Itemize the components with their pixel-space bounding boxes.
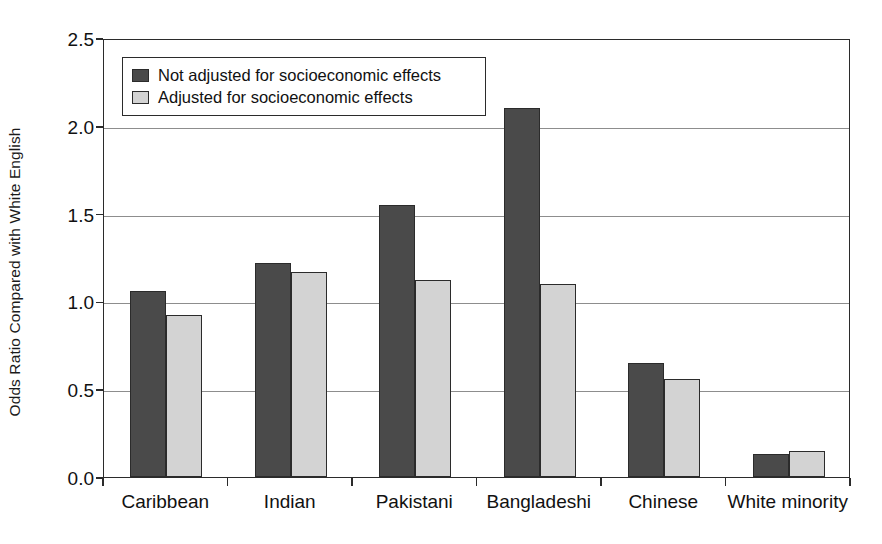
gridline bbox=[104, 391, 849, 392]
y-axis-tick-mark bbox=[96, 389, 103, 391]
chart-legend: Not adjusted for socioeconomic effects A… bbox=[122, 57, 486, 116]
y-axis-tick-mark bbox=[96, 38, 103, 40]
bar bbox=[166, 315, 202, 477]
y-axis-tick-mark bbox=[96, 302, 103, 304]
bar-chart-figure: Odds Ratio Compared with White English 0… bbox=[0, 0, 882, 544]
x-axis-tick-mark bbox=[102, 478, 104, 486]
y-axis-tick-label: 1.0 bbox=[48, 293, 94, 312]
y-axis-tick-label: 0.5 bbox=[48, 381, 94, 400]
bar bbox=[628, 363, 664, 477]
x-axis-tick-mark bbox=[351, 478, 353, 486]
y-axis-tick-label: 0.0 bbox=[48, 469, 94, 488]
x-axis-tick-label: Indian bbox=[264, 492, 316, 511]
bar bbox=[415, 280, 451, 477]
y-axis-tick-mark bbox=[96, 214, 103, 216]
legend-label-adjusted: Adjusted for socioeconomic effects bbox=[158, 89, 413, 106]
x-axis-tick-mark bbox=[849, 478, 851, 486]
bar bbox=[664, 379, 700, 477]
x-axis-tick-label: White minority bbox=[728, 492, 848, 511]
x-axis-tick-mark bbox=[725, 478, 727, 486]
bar bbox=[789, 451, 825, 477]
legend-swatch-light-icon bbox=[132, 91, 149, 104]
legend-label-not-adjusted: Not adjusted for socioeconomic effects bbox=[158, 67, 441, 84]
bar bbox=[753, 454, 789, 477]
gridline bbox=[104, 128, 849, 129]
legend-item-not-adjusted: Not adjusted for socioeconomic effects bbox=[132, 64, 476, 86]
y-axis-tick-label: 2.5 bbox=[48, 30, 94, 49]
x-axis-tick-mark bbox=[227, 478, 229, 486]
bar bbox=[540, 284, 576, 477]
legend-item-adjusted: Adjusted for socioeconomic effects bbox=[132, 86, 476, 108]
legend-swatch-dark-icon bbox=[132, 69, 149, 82]
x-axis-tick-label: Bangladeshi bbox=[486, 492, 591, 511]
x-axis-tick-label: Pakistani bbox=[376, 492, 453, 511]
gridline bbox=[104, 303, 849, 304]
x-axis-tick-label: Caribbean bbox=[121, 492, 209, 511]
y-axis-tick-label: 1.5 bbox=[48, 205, 94, 224]
gridline bbox=[104, 216, 849, 217]
x-axis-tick-mark bbox=[600, 478, 602, 486]
bar bbox=[255, 263, 291, 477]
y-axis-tick-labels: 0.00.51.01.52.02.5 bbox=[40, 0, 94, 544]
bar bbox=[130, 291, 166, 477]
x-axis-tick-label: Chinese bbox=[628, 492, 698, 511]
x-axis-tick-mark bbox=[476, 478, 478, 486]
bar bbox=[379, 205, 415, 477]
y-axis-tick-mark bbox=[96, 126, 103, 128]
y-axis-title: Odds Ratio Compared with White English bbox=[0, 0, 30, 544]
bar bbox=[504, 108, 540, 477]
bar bbox=[291, 272, 327, 477]
y-axis-tick-label: 2.0 bbox=[48, 117, 94, 136]
